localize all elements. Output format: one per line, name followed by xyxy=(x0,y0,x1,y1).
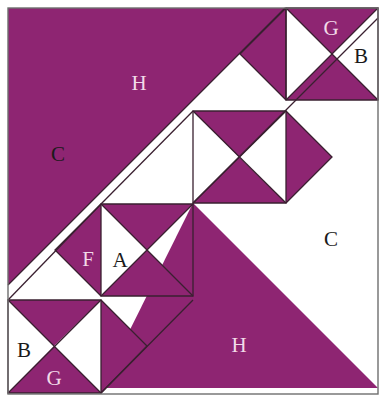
quilt-pattern-svg: HGBCCFABGH xyxy=(0,0,386,402)
quilt-block-figure: HGBCCFABGH xyxy=(0,0,386,402)
